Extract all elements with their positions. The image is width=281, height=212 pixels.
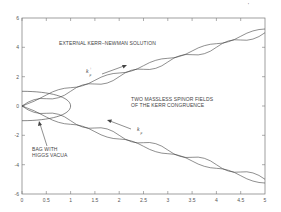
svg-text:6: 6 — [16, 15, 19, 21]
svg-text:-6: -6 — [15, 191, 20, 197]
svg-text:μ: μ — [141, 131, 143, 135]
svg-text:5: 5 — [264, 197, 267, 203]
svg-text:0: 0 — [21, 197, 24, 203]
external-solution-label: EXTERNAL KERR–NEWMAN SOLUTION — [59, 40, 156, 46]
svg-text:2.5: 2.5 — [140, 197, 147, 203]
k-plus-symbol: k + μ — [86, 67, 93, 77]
svg-text:-4: -4 — [15, 162, 20, 168]
k-minus-symbol: k μ — [137, 126, 143, 135]
svg-text:0: 0 — [16, 103, 19, 109]
svg-text:4: 4 — [16, 44, 19, 50]
lower-spinor-band — [22, 106, 265, 183]
svg-text:4: 4 — [215, 197, 218, 203]
svg-text:1.5: 1.5 — [91, 197, 98, 203]
svg-text:μ: μ — [90, 73, 92, 77]
y-tick-labels: 6 4 2 0 -2 -4 -6 — [15, 15, 20, 197]
svg-text:-2: -2 — [15, 132, 20, 138]
bag-pointer-arrow — [38, 121, 47, 146]
bag-label-line2: HIGGS VACUA — [32, 152, 68, 158]
svg-text:1: 1 — [69, 197, 72, 203]
x-tick-labels: 0 0.5 1 1.5 2 2.5 3 3.5 4 4.5 5 — [21, 197, 267, 203]
kerr-newman-diagram: ' 0 0.5 1 1.5 2 2.5 3 3.5 4 4.5 5 — [0, 0, 281, 212]
svg-text:3: 3 — [166, 197, 169, 203]
svg-text:4.5: 4.5 — [237, 197, 244, 203]
svg-text:2: 2 — [16, 74, 19, 80]
svg-text:+: + — [90, 67, 93, 71]
svg-text:3.5: 3.5 — [189, 197, 196, 203]
svg-text:0.5: 0.5 — [43, 197, 50, 203]
k-minus-arrow — [107, 120, 131, 130]
spinor-fields-label-line2: OF THE KERR CONGRUENCE — [131, 102, 205, 108]
page-mark: ' — [248, 2, 249, 8]
svg-text:2: 2 — [118, 197, 121, 203]
